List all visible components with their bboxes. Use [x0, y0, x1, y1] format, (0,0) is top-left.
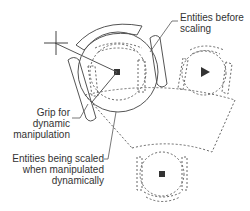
callout-line: Entities before [180, 12, 244, 23]
callout-line: dynamic [12, 118, 70, 129]
callout-line: when manipulated [4, 164, 104, 175]
callout-entities-before-scaling: Entities before scaling [180, 12, 244, 34]
callout-line: manipulation [12, 129, 70, 140]
callout-line: dynamically [4, 175, 104, 186]
triangle-grip-icon [201, 67, 210, 77]
dashed-arc-band [85, 88, 235, 152]
callout-line: scaling [180, 23, 244, 34]
callout-grip: Grip for dynamic manipulation [12, 107, 70, 140]
callout-line: Grip for [12, 107, 70, 118]
callout-line: Entities being scaled [4, 153, 104, 164]
callout-entities-being-scaled: Entities being scaled when manipulated d… [4, 153, 104, 186]
square-grip-icon [159, 171, 165, 177]
crosshair-icon [44, 31, 68, 55]
diagram-canvas: Entities before scaling Grip for dynamic… [0, 0, 250, 211]
